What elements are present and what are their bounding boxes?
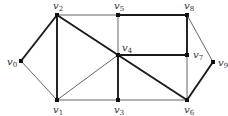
vertex-label-v3: v3 bbox=[114, 104, 124, 116]
vertex-v7 bbox=[185, 53, 189, 57]
vertex-label-v0: v0 bbox=[7, 56, 17, 69]
vertex-label-v9: v9 bbox=[218, 57, 228, 70]
vertex-label-v8: v8 bbox=[184, 0, 194, 13]
vertex-v4 bbox=[116, 53, 120, 57]
edge-v0-v2 bbox=[21, 15, 57, 61]
vertex-label-v4: v4 bbox=[122, 42, 133, 55]
vertex-v8 bbox=[185, 13, 189, 17]
vertex-v0 bbox=[19, 59, 23, 63]
edge-v4-v6 bbox=[118, 55, 187, 100]
edge-v9-v6 bbox=[187, 62, 213, 100]
vertex-v1 bbox=[55, 98, 59, 102]
vertex-v5 bbox=[116, 13, 120, 17]
vertex-label-v6: v6 bbox=[184, 104, 195, 116]
edge-v0-v1 bbox=[21, 61, 57, 100]
edge-v1-v4 bbox=[57, 55, 118, 100]
vertex-v2 bbox=[55, 13, 59, 17]
vertex-label-v2: v2 bbox=[53, 0, 63, 13]
vertex-v9 bbox=[211, 60, 215, 64]
edge-v2-v4 bbox=[57, 15, 118, 55]
vertex-label-v1: v1 bbox=[53, 104, 63, 116]
graph-diagram: v0v1v2v3v4v5v6v7v8v9 bbox=[0, 0, 228, 116]
vertex-v6 bbox=[185, 98, 189, 102]
vertex-v3 bbox=[116, 98, 120, 102]
vertex-label-v5: v5 bbox=[114, 0, 124, 13]
graph-edges bbox=[21, 15, 213, 100]
vertex-label-v7: v7 bbox=[193, 49, 203, 62]
